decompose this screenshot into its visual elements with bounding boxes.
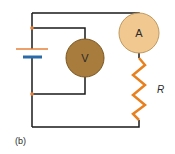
- ammeter: A: [119, 13, 159, 53]
- resistor: [133, 58, 145, 120]
- junction-top: [30, 26, 34, 30]
- ammeter-label: A: [135, 27, 143, 39]
- wire-top: [32, 13, 139, 20]
- battery: [16, 49, 48, 57]
- figure-caption: (b): [15, 136, 26, 146]
- voltmeter: V: [66, 39, 104, 77]
- wire-bottom: [32, 120, 139, 127]
- resistor-label: R: [157, 84, 164, 95]
- wire-voltmeter-bottom: [32, 77, 85, 94]
- voltmeter-label: V: [81, 52, 89, 64]
- wire-voltmeter-top: [32, 28, 85, 39]
- circuit-diagram: V A R (b): [0, 0, 175, 154]
- junction-bottom: [30, 92, 34, 96]
